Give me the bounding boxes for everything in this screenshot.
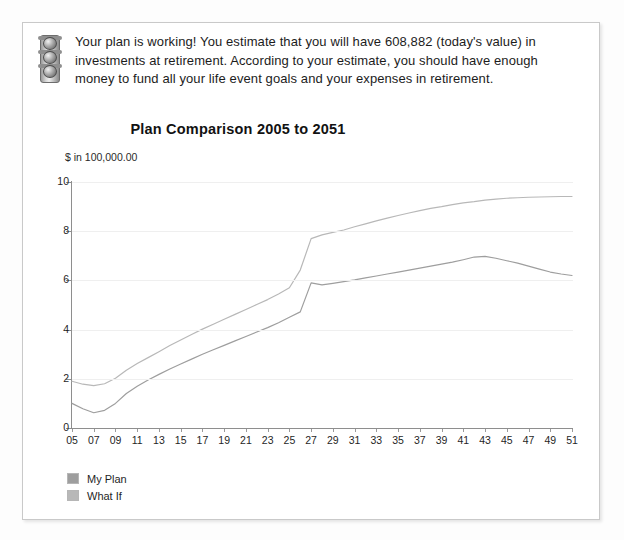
- chart-x-tick-label: 31: [349, 434, 361, 446]
- chart-y-tick-label: 6: [43, 273, 69, 285]
- chart-gridline: [72, 182, 573, 183]
- chart-plot-area: 0246810050709111315171921232527293133353…: [71, 181, 573, 429]
- chart-y-axis-unit-label: $ in 100,000.00: [65, 151, 137, 163]
- chart-x-tick: [529, 429, 530, 432]
- chart-x-tick-label: 19: [218, 434, 230, 446]
- legend-label: My Plan: [87, 473, 127, 485]
- chart-x-tick-label: 29: [327, 434, 339, 446]
- chart-gridline: [72, 379, 573, 380]
- chart-x-tick-label: 41: [457, 434, 469, 446]
- chart-x-tick-label: 07: [88, 434, 100, 446]
- chart-gridline: [72, 280, 573, 281]
- chart-line-what-if: [72, 197, 572, 386]
- chart-x-tick: [72, 429, 73, 432]
- chart-x-tick-label: 35: [392, 434, 404, 446]
- chart-x-tick-label: 23: [262, 434, 274, 446]
- chart-y-tick-label: 4: [43, 323, 69, 335]
- chart-x-tick: [159, 429, 160, 432]
- chart-x-tick: [507, 429, 508, 432]
- chart-plot-inner: 0246810050709111315171921232527293133353…: [71, 181, 573, 429]
- chart-y-tick-label: 0: [43, 421, 69, 433]
- chart-x-tick-label: 21: [240, 434, 252, 446]
- chart-x-tick: [115, 429, 116, 432]
- chart-y-tick-label: 2: [43, 372, 69, 384]
- chart-title: Plan Comparison 2005 to 2051: [23, 121, 453, 137]
- chart-x-tick: [463, 429, 464, 432]
- traffic-light-lamp-yellow: [43, 51, 57, 64]
- legend-label: What If: [87, 490, 122, 502]
- screen-root: Your plan is working! You estimate that …: [0, 0, 624, 540]
- chart-x-tick-label: 11: [132, 434, 143, 446]
- chart-x-tick: [289, 429, 290, 432]
- chart-x-tick: [224, 429, 225, 432]
- chart-x-tick-label: 15: [175, 434, 187, 446]
- chart-x-tick-label: 47: [523, 434, 535, 446]
- chart-x-tick: [572, 429, 573, 432]
- chart-x-tick: [94, 429, 95, 432]
- chart-x-tick-label: 45: [501, 434, 513, 446]
- chart-x-tick: [485, 429, 486, 432]
- chart-x-tick-label: 39: [436, 434, 448, 446]
- chart-x-tick-label: 09: [110, 434, 122, 446]
- chart-x-tick-label: 05: [66, 434, 78, 446]
- chart-y-tick-label: 10: [43, 175, 69, 187]
- legend-swatch: [67, 473, 79, 484]
- chart-gridline: [72, 330, 573, 331]
- chart-y-tick-label: 8: [43, 224, 69, 236]
- chart-legend: My PlanWhat If: [67, 471, 127, 505]
- traffic-light-icon: [37, 35, 63, 83]
- chart-x-tick-label: 33: [371, 434, 383, 446]
- chart-x-tick: [398, 429, 399, 432]
- chart-x-tick: [376, 429, 377, 432]
- chart-x-tick-label: 17: [197, 434, 209, 446]
- chart-x-tick-label: 51: [566, 434, 578, 446]
- plan-status-message: Your plan is working! You estimate that …: [75, 33, 575, 89]
- chart-x-tick: [246, 429, 247, 432]
- legend-swatch: [67, 490, 79, 501]
- chart-x-tick-label: 25: [284, 434, 296, 446]
- chart-x-tick: [181, 429, 182, 432]
- chart-x-tick: [268, 429, 269, 432]
- chart-x-tick: [333, 429, 334, 432]
- chart-x-tick-label: 13: [153, 434, 165, 446]
- chart-x-tick-label: 37: [414, 434, 426, 446]
- chart-x-tick: [355, 429, 356, 432]
- plan-comparison-chart: Plan Comparison 2005 to 2051 $ in 100,00…: [23, 121, 599, 519]
- legend-item[interactable]: My Plan: [67, 471, 127, 486]
- chart-x-tick-label: 43: [479, 434, 491, 446]
- chart-x-tick: [420, 429, 421, 432]
- chart-x-tick: [550, 429, 551, 432]
- chart-x-tick-label: 49: [544, 434, 556, 446]
- chart-x-tick: [202, 429, 203, 432]
- plan-status-notice: Your plan is working! You estimate that …: [23, 23, 599, 89]
- legend-item[interactable]: What If: [67, 488, 127, 503]
- traffic-light-lamp-green: [43, 65, 57, 78]
- chart-x-tick: [311, 429, 312, 432]
- chart-x-tick: [442, 429, 443, 432]
- chart-x-tick-label: 27: [305, 434, 317, 446]
- chart-x-tick: [137, 429, 138, 432]
- plan-summary-card: Your plan is working! You estimate that …: [22, 22, 600, 520]
- traffic-light-lamp-red: [43, 37, 57, 50]
- chart-gridline: [72, 231, 573, 232]
- chart-series-layer: [71, 181, 573, 429]
